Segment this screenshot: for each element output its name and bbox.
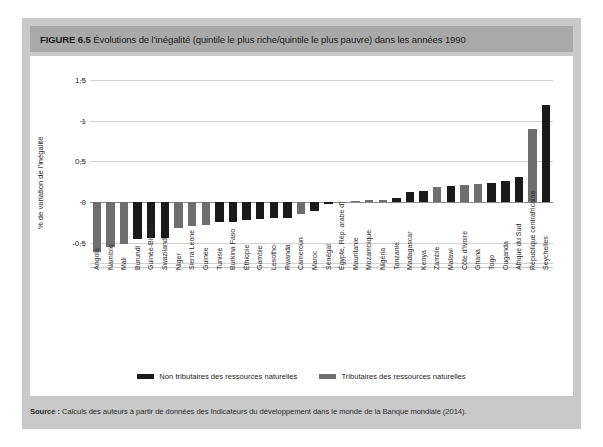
x-tick-label: Éthiopie <box>243 245 250 270</box>
x-tick-label: Angola <box>93 248 100 270</box>
legend-item: Tributaires des ressources naturelles <box>319 372 465 381</box>
chart-legend: Non tributaires des ressources naturelle… <box>30 368 573 384</box>
bar <box>188 202 196 226</box>
legend-swatch <box>319 374 336 379</box>
bar <box>256 202 264 219</box>
x-tick-label: Niger <box>175 253 182 270</box>
bar <box>161 202 169 238</box>
x-tick-label: Rwanda <box>284 244 291 270</box>
x-tick-label: Guinée-Bissau <box>147 224 154 270</box>
bar <box>242 202 250 220</box>
y-tick-mark <box>80 243 86 244</box>
legend-label: Tributaires des ressources naturelles <box>341 372 465 381</box>
bar <box>229 202 237 222</box>
legend-item: Non tributaires des ressources naturelle… <box>137 372 297 381</box>
legend-swatch <box>137 374 154 379</box>
source-label: Source : <box>30 407 60 416</box>
y-tick-mark <box>80 202 86 203</box>
bar <box>460 185 468 202</box>
x-tick-label: Ouganda <box>502 241 509 270</box>
bar <box>406 192 414 202</box>
x-tick-label: Mozambique <box>365 230 372 270</box>
bar <box>447 186 455 202</box>
x-tick-label: Togo <box>488 255 495 270</box>
gridline <box>90 263 553 264</box>
plot-area <box>90 80 553 263</box>
figure-card: FIGURE 6.5 Évolutions de l’inégalité (qu… <box>22 18 581 429</box>
bar <box>215 202 223 222</box>
x-tick-label: Seychelles <box>542 236 549 270</box>
bar <box>487 183 495 202</box>
legend-label: Non tributaires des ressources naturelle… <box>159 372 297 381</box>
zero-axis-line <box>90 202 553 203</box>
x-tick-label: Burkina Faso <box>229 229 236 270</box>
x-tick-label: Maroc <box>311 251 318 270</box>
bar <box>419 191 427 202</box>
bar <box>542 105 550 202</box>
figure-label: FIGURE <box>40 34 75 45</box>
x-tick-label: Lesotho <box>270 245 277 270</box>
x-tick-label: Zambie <box>433 247 440 270</box>
axis-separator <box>90 267 553 268</box>
chart-panel: % de variation de l’inégalité 1,510,50-0… <box>30 56 573 396</box>
bar <box>365 200 373 202</box>
y-tick-mark <box>80 121 86 122</box>
bar <box>297 202 305 214</box>
bar <box>133 202 141 239</box>
y-tick-mark <box>80 80 86 81</box>
gridline <box>90 243 553 244</box>
figure-page: FIGURE 6.5 Évolutions de l’inégalité (qu… <box>0 0 603 447</box>
bar <box>174 202 182 228</box>
x-tick-label: Kenya <box>420 250 427 270</box>
y-tick-mark <box>80 161 86 162</box>
figure-source: Source : Calculs des auteurs à partir de… <box>30 401 573 421</box>
x-tick-label: Guinée <box>202 247 209 270</box>
figure-title-text: Évolutions de l’inégalité (quintile le p… <box>93 34 465 45</box>
x-tick-label: Nigéria <box>379 248 386 270</box>
bar <box>515 177 523 202</box>
x-tick-label: Malawi <box>447 248 454 270</box>
x-tick-label: Tunisie <box>216 248 223 270</box>
x-tick-label: Sierra Leone <box>188 230 195 270</box>
bar <box>202 202 210 225</box>
x-tick-label: Afrique du Sud <box>515 224 522 270</box>
bar <box>324 202 332 204</box>
bar <box>379 200 387 202</box>
x-tick-label: Mauritanie <box>352 237 359 270</box>
bar <box>433 187 441 202</box>
bar <box>93 202 101 252</box>
figure-number: 6.5 <box>78 34 91 45</box>
figure-title: FIGURE 6.5 Évolutions de l’inégalité (qu… <box>30 34 466 45</box>
bar <box>283 202 291 218</box>
bar <box>392 198 400 202</box>
x-tick-label: Égypte, Rép. arabe d' <box>338 203 345 271</box>
bar <box>351 201 359 202</box>
x-tick-label: Gambie <box>256 245 263 270</box>
x-tick-label: Madagascar <box>406 231 413 270</box>
bar <box>310 202 318 211</box>
x-tick-label: Ghana <box>474 249 481 270</box>
figure-title-bar: FIGURE 6.5 Évolutions de l’inégalité (qu… <box>30 26 573 52</box>
x-tick-label: Tanzanie <box>393 242 400 270</box>
y-axis-ticks: 1,510,50-0,5 <box>44 80 86 263</box>
x-tick-label: Cameroun <box>297 237 304 270</box>
source-text: Calculs des auteurs à partir de données … <box>60 407 467 416</box>
bar <box>270 202 278 218</box>
bar <box>120 202 128 244</box>
bar <box>106 202 114 247</box>
x-tick-label: République centrafricaine <box>529 191 536 270</box>
bar <box>501 181 509 202</box>
x-tick-label: Namibie <box>107 244 114 270</box>
x-tick-label: Swaziland <box>161 238 168 270</box>
gridline <box>90 121 553 122</box>
x-tick-label: Mali <box>120 257 127 270</box>
gridline <box>90 161 553 162</box>
x-tick-label: Sénégal <box>325 244 332 270</box>
x-tick-label: Burundi <box>134 246 141 270</box>
x-axis-labels: AngolaNamibieMaliBurundiGuinée-BissauSwa… <box>90 270 553 382</box>
x-tick-label: Côte d'Ivoire <box>461 231 468 270</box>
bar <box>474 184 482 202</box>
gridline <box>90 80 553 81</box>
